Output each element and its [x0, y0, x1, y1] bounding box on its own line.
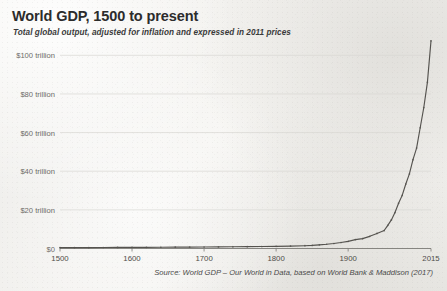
y-axis-tick-label: $100 trillion: [0, 51, 55, 60]
chart-gridlines: [60, 55, 431, 210]
y-axis-tick-label: $80 trillion: [0, 89, 55, 98]
gdp-line-chart: [0, 0, 447, 291]
y-axis-tick-label: $60 trillion: [0, 128, 55, 137]
x-axis-tick-label: 1700: [195, 254, 212, 263]
y-axis-tick-label: $40 trillion: [0, 167, 55, 176]
gdp-series-markers: [59, 40, 432, 249]
chart-subtitle: Total global output, adjusted for inflat…: [13, 28, 291, 37]
x-axis-tick-label: 1500: [51, 254, 68, 263]
y-axis-tick-label: $0: [0, 244, 55, 253]
chart-source-note: Source: World GDP – Our World in Data, b…: [0, 268, 433, 277]
x-axis-tick-label: 1800: [267, 254, 284, 263]
y-axis-tick-label: $20 trillion: [0, 205, 55, 214]
chart-x-tickmarks: [60, 249, 431, 252]
x-axis-tick-label: 2015: [422, 254, 439, 263]
chart-title: World GDP, 1500 to present: [12, 8, 198, 24]
gdp-series-line: [60, 41, 431, 248]
x-axis-tick-label: 1900: [339, 254, 356, 263]
x-axis-tick-label: 1600: [123, 254, 140, 263]
